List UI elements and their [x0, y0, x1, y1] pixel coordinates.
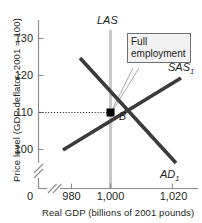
las-label: LAS: [97, 15, 118, 26]
ad1-label-base: AD: [160, 168, 175, 180]
origin-label: 0: [27, 191, 33, 202]
sas1-label: SAS1: [168, 62, 194, 76]
ad1-label-sub: 1: [175, 174, 179, 183]
ad1-label: AD1: [160, 169, 179, 183]
sas1-label-sub: 1: [190, 67, 194, 76]
y-axis-break-icon: [34, 164, 43, 178]
callout-line-1: Full: [131, 36, 187, 48]
x-axis-ticks: [72, 184, 173, 189]
callout-line-2: employment: [131, 48, 187, 60]
full-employment-callout: Full employment: [127, 33, 191, 63]
figure-as-ad-full-employment: 130 120 110 100 0 980 1,000 1,020 Real G…: [0, 0, 202, 223]
x-tick-label-1020: 1,020: [156, 191, 191, 202]
equilibrium-point-label: B: [119, 111, 126, 122]
callout-leader-line: [112, 68, 139, 110]
y-axis-title: Price level (GDP deflator, 2001 = 100): [12, 18, 22, 182]
y-axis-ticks: [39, 39, 44, 150]
equilibrium-point-marker: [107, 109, 115, 117]
x-tick-label-980: 980: [57, 191, 86, 202]
x-tick-label-1000: 1,000: [93, 191, 128, 202]
x-axis-title: Real GDP (billions of 2001 pounds): [42, 208, 194, 218]
